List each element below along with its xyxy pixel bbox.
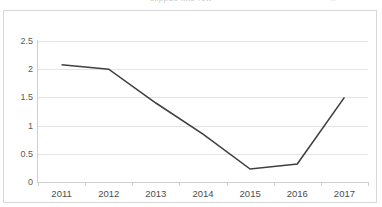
y-tick-label: 1.5	[20, 92, 33, 102]
series-layer	[38, 41, 368, 182]
x-axis-tick-labels: 2011201220132014201520162017	[38, 188, 368, 202]
y-tick-label: 2.5	[20, 36, 33, 46]
x-tick-label: 2015	[240, 188, 261, 199]
chart-screenshot: clipped title row ... 00.511.522.5 20112…	[0, 0, 382, 207]
y-axis-tick-labels: 00.511.522.5	[6, 41, 33, 182]
series-1-line	[62, 65, 345, 169]
y-tick-label: 0.5	[20, 149, 33, 159]
clipped-title-strip: clipped title row ...	[0, 0, 382, 9]
x-tick	[38, 182, 39, 186]
x-tick-label: 2017	[334, 188, 355, 199]
x-tick-label: 2011	[51, 188, 71, 199]
y-tick-label: 0	[28, 177, 33, 187]
x-tick	[85, 182, 86, 186]
x-tick-label: 2013	[145, 188, 166, 199]
clipped-title-right-text: ...	[330, 0, 337, 3]
y-tick-label: 2	[28, 64, 33, 74]
x-tick	[179, 182, 180, 186]
x-tick-label: 2016	[287, 188, 308, 199]
x-tick	[227, 182, 228, 186]
x-tick	[368, 182, 369, 186]
clipped-title-text: clipped title row	[150, 0, 212, 3]
x-tick	[274, 182, 275, 186]
x-axis-ticks	[38, 182, 369, 187]
plot-area	[38, 41, 368, 182]
x-tick-label: 2012	[98, 188, 119, 199]
y-tick-label: 1	[28, 121, 33, 131]
x-tick-label: 2014	[192, 188, 213, 199]
x-tick	[132, 182, 133, 186]
x-tick	[321, 182, 322, 186]
